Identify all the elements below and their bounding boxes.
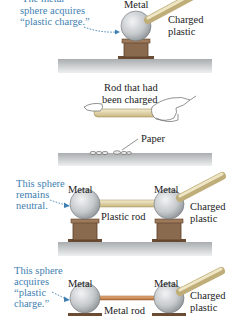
paper-leader-line [122, 139, 138, 150]
panel-2-paper-label: Paper [141, 133, 165, 144]
right-hand-icon [152, 96, 197, 120]
panel-4-rod-label-2: plastic [190, 302, 217, 313]
table-surface [58, 242, 212, 256]
panel-4-annotation-line-2: acquires [14, 276, 49, 287]
panel-4-annotation-line-1: This sphere [14, 265, 63, 276]
panel-1-annotation-line-1: The metal [22, 0, 64, 4]
panel-4-connector-label: Metal rod [104, 305, 145, 316]
left-stand [73, 222, 97, 240]
panel-4-annotation-line-4: charge.” [14, 298, 49, 309]
panel-1-sphere-label: Metal [124, 0, 149, 10]
panel-2-rod-label-1: Rod that had [104, 82, 158, 93]
panel-3-left-sphere-label: Metal [68, 184, 93, 195]
panel-3-right-sphere-label: Metal [154, 184, 179, 195]
annotation-arrow [84, 27, 117, 32]
annotation-arrow [52, 292, 66, 299]
panel-1-annotation-line-2: sphere acquires [20, 5, 85, 16]
charged-plastic-rod [180, 176, 222, 198]
panel-3-connector-label: Plastic rod [101, 211, 146, 222]
panel-3-rod-label-1: Charged [190, 201, 225, 212]
panel-4-right-sphere-label: Metal [154, 278, 179, 289]
right-stand [157, 222, 181, 240]
panel-3-annotation-line-2: remains [16, 189, 49, 200]
panel-3-rod-label-2: plastic [190, 213, 217, 224]
charged-plastic-rod [180, 271, 221, 292]
panel-3-annotation-line-1: This sphere [16, 178, 65, 189]
panel-4-annotation-line-3: “plastic [14, 287, 46, 298]
panel-4-rod-label-1: Charged [190, 290, 225, 301]
panel-1-rod-label-2: plastic [168, 26, 195, 37]
panel-2-rod-label-2: been charged [102, 94, 157, 105]
panel-3-annotation-line-3: neutral. [16, 200, 48, 211]
panel-4-left-sphere-label: Metal [68, 278, 93, 289]
table-surface [58, 59, 212, 73]
panel-1-annotation-line-3: “plastic charge.” [20, 16, 90, 27]
panel-1-rod-label-1: Charged [168, 14, 203, 25]
metal-sphere [121, 11, 151, 41]
stand [124, 41, 148, 57]
left-hand-icon [84, 103, 103, 111]
annotation-arrow [50, 200, 66, 205]
table-surface [58, 153, 212, 166]
panel-2-graphics [58, 96, 212, 166]
